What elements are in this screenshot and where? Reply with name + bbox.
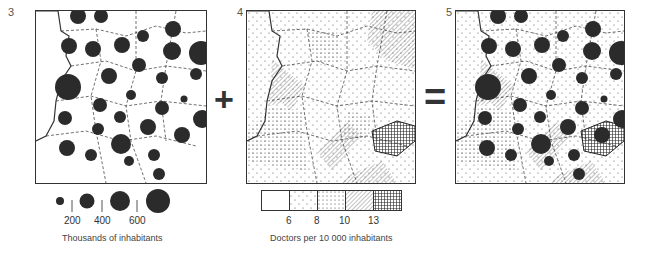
panel-number-5: 5: [446, 6, 452, 18]
doctors-legend-bar: [261, 190, 405, 214]
equals-operator: =: [424, 76, 446, 119]
combined-map-graphic: [456, 11, 624, 183]
plus-operator: +: [214, 80, 234, 119]
population-tick-400: 400: [94, 215, 111, 226]
doctors-tick-6: 6: [286, 215, 292, 226]
doctors-map-graphic: [247, 11, 415, 183]
doctors-tick-10: 10: [339, 215, 350, 226]
doctors-tick-13: 13: [368, 215, 379, 226]
doctors-legend-caption: Doctors per 10 000 inhabitants: [270, 233, 393, 243]
doctors-map: [246, 10, 416, 184]
population-map: [35, 10, 207, 184]
panel-number-3: 3: [8, 6, 14, 18]
population-legend-caption: Thousands of inhabitants: [62, 233, 163, 243]
population-legend-circles: [50, 188, 180, 218]
population-tick-600: 600: [129, 215, 146, 226]
combined-map: [455, 10, 625, 184]
doctors-tick-8: 8: [314, 215, 320, 226]
panel-number-4: 4: [237, 6, 243, 18]
population-map-graphic: [36, 11, 206, 183]
population-tick-200: 200: [64, 215, 81, 226]
